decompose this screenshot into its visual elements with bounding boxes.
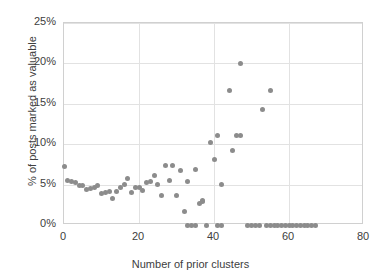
data-point <box>140 188 145 193</box>
gridline-horizontal <box>64 63 362 64</box>
data-point <box>148 179 153 184</box>
gridline-vertical <box>214 23 215 223</box>
x-tick-label: 40 <box>193 230 233 242</box>
data-point <box>163 163 168 168</box>
data-point <box>208 140 213 145</box>
data-point <box>227 88 232 93</box>
x-axis-title: Number of prior clusters <box>0 258 381 270</box>
data-point <box>230 148 235 153</box>
gridline-horizontal <box>64 23 362 24</box>
data-point <box>107 189 112 194</box>
data-point <box>215 133 220 138</box>
data-point <box>159 193 164 198</box>
data-point <box>212 157 217 162</box>
x-tick-label: 60 <box>268 230 308 242</box>
data-point <box>268 88 273 93</box>
data-point <box>204 223 209 228</box>
plot-area <box>63 22 363 224</box>
y-tick-label: 10% <box>14 136 56 148</box>
gridline-horizontal <box>64 185 362 186</box>
data-point <box>178 168 183 173</box>
gridline-horizontal <box>64 104 362 105</box>
data-point <box>155 182 160 187</box>
gridline-horizontal <box>64 144 362 145</box>
data-point <box>260 107 265 112</box>
data-point <box>219 182 224 187</box>
data-point <box>62 164 67 169</box>
data-point <box>313 223 318 228</box>
data-point <box>110 196 115 201</box>
y-tick-label: 25% <box>14 15 56 27</box>
gridline-vertical <box>139 23 140 223</box>
gridline-vertical <box>289 23 290 223</box>
data-point <box>238 61 243 66</box>
y-tick-label: 5% <box>14 177 56 189</box>
data-point <box>129 190 134 195</box>
data-point <box>174 193 179 198</box>
data-point <box>182 209 187 214</box>
data-point <box>122 182 127 187</box>
data-point <box>185 179 190 184</box>
data-point <box>193 167 198 172</box>
data-point <box>170 163 175 168</box>
x-tick-label: 0 <box>43 230 83 242</box>
scatter-chart-figure: % of posts marked as valuable 0%5%10%15%… <box>0 0 381 280</box>
data-point <box>238 133 243 138</box>
data-point <box>95 183 100 188</box>
data-point <box>219 223 224 228</box>
x-tick-label: 20 <box>118 230 158 242</box>
y-tick-label: 20% <box>14 55 56 67</box>
data-point <box>257 223 262 228</box>
x-tick-label: 80 <box>343 230 381 242</box>
y-tick-label: 15% <box>14 96 56 108</box>
data-point <box>167 178 172 183</box>
data-point <box>152 173 157 178</box>
y-tick-label: 0% <box>14 217 56 229</box>
data-point <box>193 223 198 228</box>
data-point <box>125 176 130 181</box>
